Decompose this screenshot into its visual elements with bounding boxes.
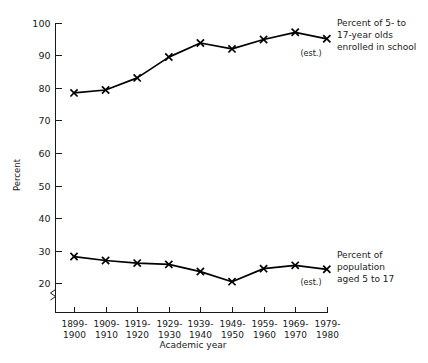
series-2-annotation-line-3: aged 5 to 17: [337, 274, 394, 284]
y-axis-tick-labels: 2030405060708090100: [32, 18, 50, 289]
y-axis-tick-label: 70: [38, 115, 50, 126]
series-1: [70, 29, 330, 97]
y-axis-tick-label: 80: [38, 83, 50, 94]
x-axis-tick-label: 1930: [158, 330, 181, 340]
chart-container: 2030405060708090100 1899-19001909-191019…: [0, 0, 428, 363]
x-axis-tick-label: 1929-: [156, 319, 182, 329]
y-axis-tick-label: 20: [38, 278, 50, 289]
data-point-marker: [165, 53, 172, 60]
x-axis-tick-label: 1940: [189, 330, 212, 340]
x-axis-tick-label: 1939-: [187, 319, 213, 329]
x-axis-tick-label: 1969-: [282, 319, 308, 329]
series-2-annotation: Percent of population aged 5 to 17: [337, 250, 394, 284]
x-axis-tick-label: 1899-: [61, 319, 87, 329]
series-1-annotation-line-3: enrolled in school: [337, 42, 416, 52]
line-chart: 2030405060708090100 1899-19001909-191019…: [0, 0, 428, 363]
y-axis-ticks: [56, 24, 62, 284]
series-1-annotation-line-2: 17-year olds: [337, 30, 393, 40]
x-axis-tick-label: 1979-: [314, 319, 340, 329]
series-2-est-label: (est.): [300, 278, 321, 287]
series-1-annotation: Percent of 5- to 17-year olds enrolled i…: [337, 18, 416, 52]
data-point-marker: [134, 74, 141, 81]
series-1-line: [74, 32, 327, 93]
series-1-est-label: (est.): [300, 49, 321, 58]
series-2-line: [74, 257, 327, 282]
x-axis-tick-label: 1910: [95, 330, 118, 340]
x-axis-tick-label: 1900: [63, 330, 86, 340]
x-axis-tick-label: 1949-: [219, 319, 245, 329]
series-2-annotation-line-2: population: [337, 262, 385, 272]
x-axis-tick-label: 1920: [126, 330, 149, 340]
y-axis-tick-label: 30: [38, 246, 50, 257]
x-axis-tick-label: 1980: [316, 330, 339, 340]
series-2: [70, 253, 330, 285]
y-axis-tick-label: 100: [32, 18, 50, 29]
series-1-annotation-line-1: Percent of 5- to: [337, 18, 407, 28]
series-2-annotation-line-1: Percent of: [337, 250, 383, 260]
x-axis-tick-label: 1909-: [93, 319, 119, 329]
y-axis-title: Percent: [12, 158, 22, 191]
y-axis-tick-label: 40: [38, 213, 50, 224]
x-axis-tick-label: 1919-: [124, 319, 150, 329]
x-axis-ticks: [75, 307, 328, 313]
x-axis-tick-label: 1950: [221, 330, 244, 340]
y-axis-tick-label: 60: [38, 148, 50, 159]
y-axis-tick-label: 50: [38, 181, 50, 192]
y-axis-break-icon: [51, 290, 56, 301]
x-axis-tick-label: 1970: [284, 330, 307, 340]
x-axis-tick-label: 1960: [253, 330, 276, 340]
x-axis-tick-labels: 1899-19001909-19101919-19201929-19301939…: [61, 319, 340, 340]
series-group: [70, 29, 330, 286]
x-axis-tick-label: 1959-: [251, 319, 277, 329]
x-axis-title: Academic year: [160, 340, 227, 350]
y-axis-tick-label: 90: [38, 50, 50, 61]
